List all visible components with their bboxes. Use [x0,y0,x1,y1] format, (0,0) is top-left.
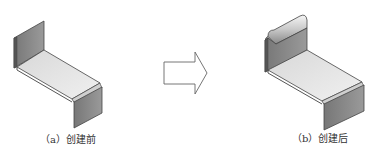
back-flange-edge [14,37,17,68]
part-after [265,15,364,130]
caption-before: （a）创建前 [40,131,96,146]
transform-arrow [164,52,207,94]
caption-after: （b）创建后 [292,130,348,145]
back-flange-edge [265,38,268,72]
part-before [14,21,102,128]
arrow-right-icon [164,52,207,94]
